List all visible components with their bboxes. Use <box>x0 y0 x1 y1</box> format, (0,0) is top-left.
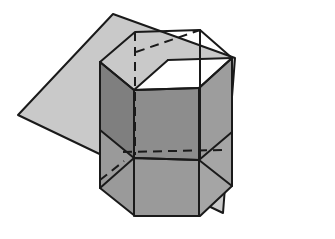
cube-front-face <box>134 88 199 160</box>
geometry-figure-container <box>0 0 335 239</box>
prism-lower-front-face <box>134 158 199 216</box>
geometry-figure-svg <box>0 0 335 239</box>
